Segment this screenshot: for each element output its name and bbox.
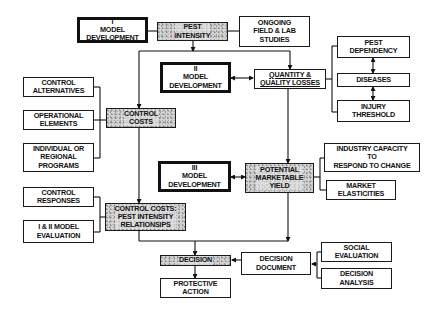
individual-regional-programs-label: INDIVIDUAL OR REGIONAL PROGRAMS [33,145,84,170]
market-elasticities-label: MARKET ELASTICITIES [338,182,384,198]
model-development-ii-box: II MODEL DEVELOPMENT [160,62,231,93]
decision-analysis-box: DECISION ANALYSIS [321,268,392,289]
model-development-i-label: I MODEL DEVELOPMENT [86,18,139,43]
potential-marketable-yield-box: POTENTIAL MARKETABLE YIELD [245,163,314,193]
pest-intensity-box: PEST INTENSITY [157,22,228,41]
ongoing-studies-box: ONGOING FIELD & LAB STUDIES [239,16,310,47]
protective-action-box: PROTECTIVE ACTION [160,278,231,298]
pest-management-flow-diagram: I MODEL DEVELOPMENT PEST INTENSITY ONGOI… [0,0,442,317]
decision-box: DECISION [160,255,231,266]
market-elasticities-box: MARKET ELASTICITIES [326,180,396,200]
ongoing-studies-label: ONGOING FIELD & LAB STUDIES [253,19,296,44]
model-evaluation-label: I & II MODEL EVALUATION [37,223,81,239]
industry-capacity-label: INDUSTRY CAPACITY TO RESPOND TO CHANGE [333,145,410,170]
quantity-quality-losses-label: QUANTITY & QUALITY LOSSES [260,71,320,87]
control-alternatives-box: CONTROL ALTERNATIVES [23,77,94,97]
protective-action-label: PROTECTIVE ACTION [174,280,218,296]
operational-elements-box: OPERATIONAL ELEMENTS [23,110,94,130]
pest-intensity-label: PEST INTENSITY [175,23,211,39]
injury-threshold-label: INJURY THRESHOLD [352,103,395,119]
pest-dependency-box: PEST DEPENDENCY [337,36,410,58]
decision-label: DECISION [179,256,212,264]
diseases-label: DISEASES [356,76,391,84]
model-development-ii-label: II MODEL DEVELOPMENT [169,65,222,90]
potential-marketable-yield-label: POTENTIAL MARKETABLE YIELD [256,166,304,191]
control-costs-pest-intensity-box: CONTROL COSTS: PEST INTENSITY RELATIONSI… [105,203,186,231]
quantity-quality-losses-box: QUANTITY & QUALITY LOSSES [254,69,326,89]
injury-threshold-box: INJURY THRESHOLD [337,100,410,122]
decision-analysis-label: DECISION ANALYSIS [339,270,373,286]
diseases-box: DISEASES [337,73,410,87]
decision-document-label: DECISION DOCUMENT [256,255,296,271]
operational-elements-label: OPERATIONAL ELEMENTS [34,112,84,128]
individual-regional-programs-box: INDIVIDUAL OR REGIONAL PROGRAMS [23,143,94,172]
social-evaluation-label: SOCIAL EVALUATION [335,244,379,260]
control-costs-box: CONTROL COSTS [106,108,176,128]
control-responses-box: CONTROL RESPONSES [23,187,94,207]
model-development-iii-label: III MODEL DEVELOPMENT [168,164,221,189]
pest-dependency-label: PEST DEPENDENCY [350,39,398,55]
control-costs-pest-intensity-label: CONTROL COSTS: PEST INTENSITY RELATIONSI… [115,205,177,230]
control-costs-label: CONTROL COSTS [124,110,158,126]
model-development-iii-box: III MODEL DEVELOPMENT [158,161,231,192]
decision-document-box: DECISION DOCUMENT [241,252,311,275]
control-responses-label: CONTROL RESPONSES [37,189,80,205]
industry-capacity-box: INDUSTRY CAPACITY TO RESPOND TO CHANGE [324,143,420,172]
model-evaluation-box: I & II MODEL EVALUATION [23,220,94,243]
control-alternatives-label: CONTROL ALTERNATIVES [33,79,85,95]
model-development-i-box: I MODEL DEVELOPMENT [77,17,148,43]
social-evaluation-box: SOCIAL EVALUATION [321,242,392,262]
